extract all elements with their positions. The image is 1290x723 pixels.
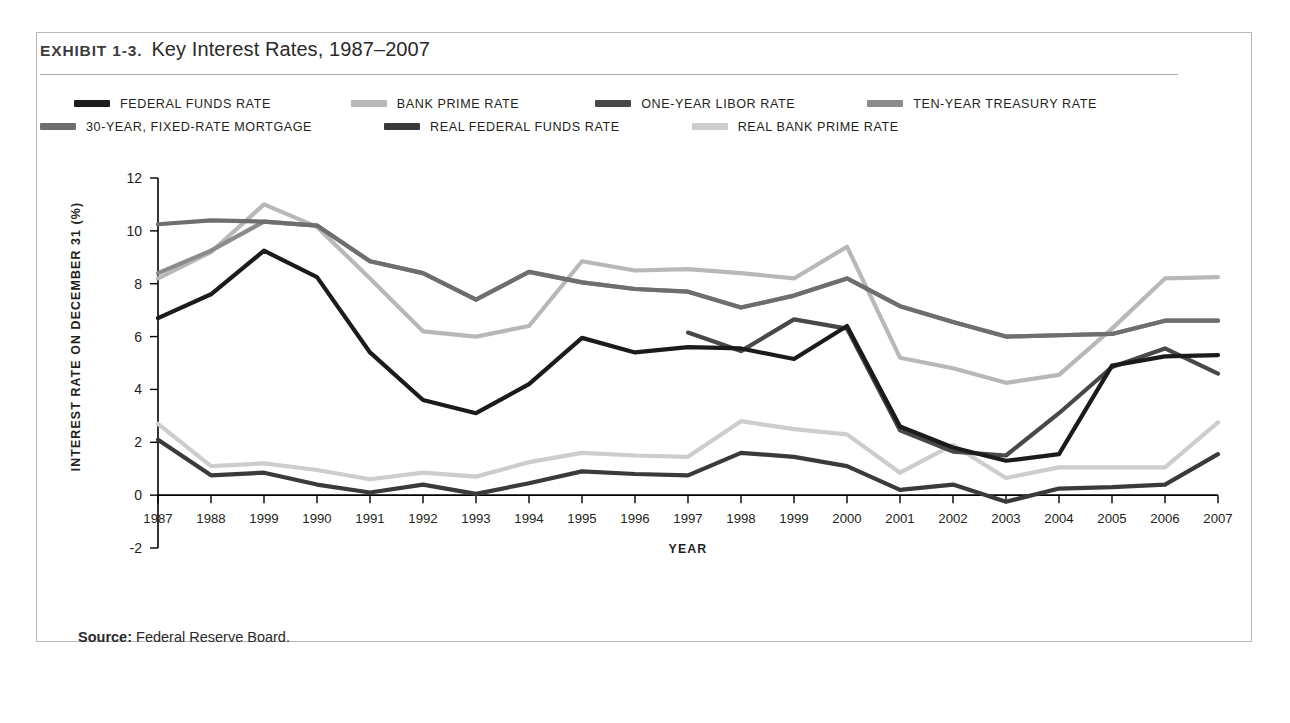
source-label: Source:: [78, 629, 132, 645]
x-axis-title: YEAR: [669, 542, 708, 556]
x-axis-tick-label: 1994: [514, 511, 543, 526]
y-axis-tick-label: 8: [134, 276, 142, 292]
chart-plot-area: 121086420-219871988199919901991199219931…: [36, 140, 1252, 620]
line-chart-svg: 121086420-219871988199919901991199219931…: [36, 140, 1252, 620]
series-line-one-year-libor-rate: [688, 319, 1218, 455]
header-divider: [40, 74, 1178, 75]
legend-swatch-icon: [692, 123, 728, 130]
legend-item-bank-prime-rate[interactable]: BANK PRIME RATE: [351, 97, 519, 111]
x-axis-tick-label: 1991: [355, 511, 384, 526]
legend-item-real-bank-prime-rate[interactable]: REAL BANK PRIME RATE: [692, 120, 899, 134]
y-axis-tick-label: -2: [130, 540, 143, 556]
exhibit-label: Exhibit 1-3.: [40, 42, 142, 60]
x-axis-tick-label: 2006: [1150, 511, 1179, 526]
x-axis-tick-label: 1988: [196, 511, 225, 526]
x-axis-tick-label: 1999: [249, 511, 278, 526]
exhibit-header: Exhibit 1-3. Key Interest Rates, 1987–20…: [40, 38, 1180, 61]
x-axis-tick-label: 2000: [832, 511, 861, 526]
x-axis-tick-label: 1992: [408, 511, 437, 526]
legend-label: FEDERAL FUNDS RATE: [120, 97, 271, 111]
x-axis-tick-label: 2002: [938, 511, 967, 526]
y-axis-tick-label: 2: [134, 434, 142, 450]
y-axis-tick-label: 12: [126, 170, 142, 186]
legend-swatch-icon: [40, 123, 76, 130]
y-axis-title: INTEREST RATE ON DECEMBER 31 (%): [69, 202, 83, 472]
legend-item-30-year-fixed-rate-mortgage[interactable]: 30-YEAR, FIXED-RATE MORTGAGE: [40, 120, 312, 134]
x-axis-tick-label: 1999: [779, 511, 808, 526]
x-axis-tick-label: 1987: [143, 511, 172, 526]
legend-item-real-federal-funds-rate[interactable]: REAL FEDERAL FUNDS RATE: [384, 120, 620, 134]
legend-label: TEN-YEAR TREASURY RATE: [913, 97, 1097, 111]
page-title: Key Interest Rates, 1987–2007: [151, 38, 430, 61]
legend-swatch-icon: [74, 100, 110, 107]
legend-swatch-icon: [384, 123, 420, 130]
x-axis-tick-label: 2003: [991, 511, 1020, 526]
legend-swatch-icon: [867, 100, 903, 107]
x-axis-tick-label: 1995: [567, 511, 596, 526]
x-axis-tick-label: 1998: [726, 511, 755, 526]
x-axis-tick-label: 2004: [1044, 511, 1073, 526]
legend-label: ONE-YEAR LIBOR RATE: [641, 97, 795, 111]
legend-item-federal-funds-rate[interactable]: FEDERAL FUNDS RATE: [74, 97, 271, 111]
legend-item-ten-year-treasury-rate[interactable]: TEN-YEAR TREASURY RATE: [867, 97, 1097, 111]
legend-label: REAL FEDERAL FUNDS RATE: [430, 120, 620, 134]
legend-label: BANK PRIME RATE: [397, 97, 519, 111]
x-axis-tick-label: 1990: [302, 511, 331, 526]
y-axis-tick-label: 4: [134, 381, 142, 397]
legend-swatch-icon: [351, 100, 387, 107]
x-axis-tick-label: 2007: [1203, 511, 1232, 526]
series-line-federal-funds-rate: [158, 251, 1218, 461]
legend-item-one-year-libor-rate[interactable]: ONE-YEAR LIBOR RATE: [595, 97, 795, 111]
y-axis-tick-label: 10: [126, 223, 142, 239]
chart-legend: FEDERAL FUNDS RATEBANK PRIME RATEONE-YEA…: [40, 92, 1180, 138]
legend-label: 30-YEAR, FIXED-RATE MORTGAGE: [86, 120, 312, 134]
x-axis-tick-label: 2001: [885, 511, 914, 526]
source-text: Federal Reserve Board.: [136, 629, 290, 645]
y-axis-tick-label: 0: [134, 487, 142, 503]
source-note: Source: Federal Reserve Board.: [78, 629, 290, 645]
legend-label: REAL BANK PRIME RATE: [738, 120, 899, 134]
x-axis-tick-label: 1993: [461, 511, 490, 526]
y-axis-tick-label: 6: [134, 329, 142, 345]
x-axis-tick-label: 2005: [1097, 511, 1126, 526]
x-axis-tick-label: 1996: [620, 511, 649, 526]
legend-swatch-icon: [595, 100, 631, 107]
legend-row: 30-YEAR, FIXED-RATE MORTGAGEREAL FEDERAL…: [40, 115, 1180, 138]
x-axis-tick-label: 1997: [673, 511, 702, 526]
legend-row: FEDERAL FUNDS RATEBANK PRIME RATEONE-YEA…: [40, 92, 1180, 115]
